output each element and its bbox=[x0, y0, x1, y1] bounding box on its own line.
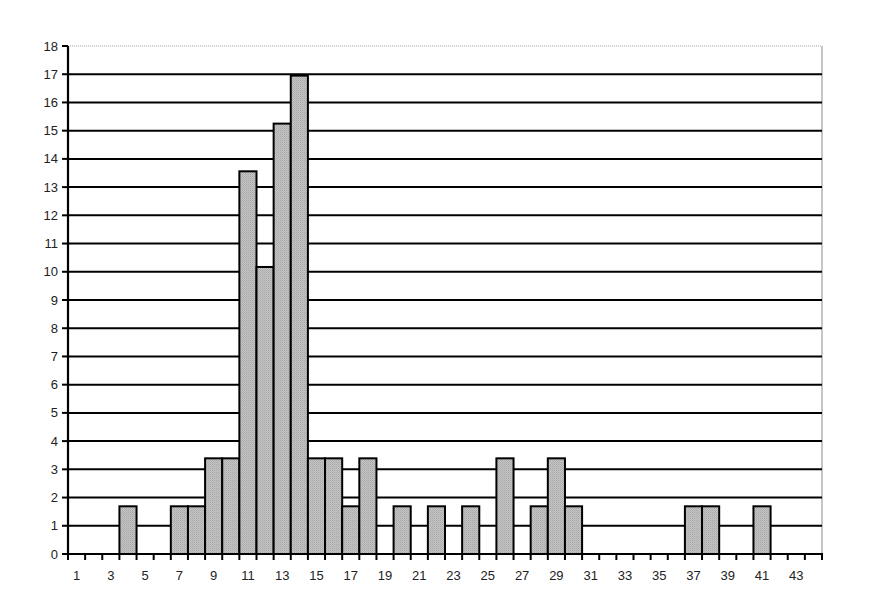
bar-41: 41: 1.69 bbox=[753, 506, 770, 554]
bars: 4: 1.697: 1.698: 1.699: 3.3910: 3.3911: … bbox=[119, 76, 770, 554]
bar-16: 16: 3.39 bbox=[325, 458, 342, 554]
x-tick-label: 19 bbox=[378, 568, 392, 583]
x-tick-label: 9 bbox=[210, 568, 217, 583]
bar-26: 26: 3.39 bbox=[496, 458, 513, 554]
x-tick-label: 7 bbox=[176, 568, 183, 583]
bar-4: 4: 1.69 bbox=[119, 506, 136, 554]
x-tick-label: 27 bbox=[515, 568, 529, 583]
x-tick-label: 31 bbox=[583, 568, 597, 583]
y-tick-label: 14 bbox=[44, 151, 58, 166]
bar-15: 15: 3.39 bbox=[308, 458, 325, 554]
bar-9: 9: 3.39 bbox=[205, 458, 222, 554]
bar-18: 18: 3.39 bbox=[359, 458, 376, 554]
y-tick-label: 4 bbox=[51, 434, 58, 449]
bar-14: 14: 16.95 bbox=[291, 76, 308, 554]
bar-37: 37: 1.69 bbox=[685, 506, 702, 554]
x-tick-label: 15 bbox=[309, 568, 323, 583]
x-tick-label: 43 bbox=[789, 568, 803, 583]
bar-22: 22: 1.69 bbox=[428, 506, 445, 554]
x-tick-label: 29 bbox=[549, 568, 563, 583]
bar-24: 24: 1.69 bbox=[462, 506, 479, 554]
x-tick-label: 23 bbox=[446, 568, 460, 583]
x-tick-label: 21 bbox=[412, 568, 426, 583]
x-tick-label: 3 bbox=[107, 568, 114, 583]
bar-17: 17: 1.69 bbox=[342, 506, 359, 554]
gridlines bbox=[68, 74, 822, 526]
y-tick-label: 15 bbox=[44, 123, 58, 138]
y-tick-label: 0 bbox=[51, 547, 58, 562]
x-tick-label: 37 bbox=[686, 568, 700, 583]
y-tick-label: 8 bbox=[51, 321, 58, 336]
bar-7: 7: 1.69 bbox=[171, 506, 188, 554]
y-tick-label: 17 bbox=[44, 67, 58, 82]
histogram-chart: 4: 1.697: 1.698: 1.699: 3.3910: 3.3911: … bbox=[0, 0, 870, 608]
y-tick-label: 10 bbox=[44, 264, 58, 279]
bar-30: 30: 1.69 bbox=[565, 506, 582, 554]
y-axis-ticks: 0123456789101112131415161718 bbox=[44, 39, 68, 562]
y-tick-label: 6 bbox=[51, 377, 58, 392]
y-tick-label: 5 bbox=[51, 405, 58, 420]
y-tick-label: 12 bbox=[44, 208, 58, 223]
x-axis-ticks: 135791113151719212325272931333537394143 bbox=[68, 554, 822, 583]
bar-8: 8: 1.69 bbox=[188, 506, 205, 554]
y-tick-label: 13 bbox=[44, 180, 58, 195]
x-tick-label: 13 bbox=[275, 568, 289, 583]
x-tick-label: 1 bbox=[73, 568, 80, 583]
x-tick-label: 17 bbox=[344, 568, 358, 583]
x-tick-label: 33 bbox=[618, 568, 632, 583]
x-tick-label: 25 bbox=[481, 568, 495, 583]
bar-11: 11: 13.56 bbox=[239, 171, 256, 554]
x-tick-label: 35 bbox=[652, 568, 666, 583]
bar-10: 10: 3.39 bbox=[222, 458, 239, 554]
y-tick-label: 7 bbox=[51, 349, 58, 364]
y-tick-label: 11 bbox=[45, 236, 59, 251]
bar-13: 13: 15.25 bbox=[274, 124, 291, 554]
x-tick-label: 5 bbox=[141, 568, 148, 583]
bar-29: 29: 3.39 bbox=[548, 458, 565, 554]
x-tick-label: 11 bbox=[241, 568, 255, 583]
bar-12: 12: 10.17 bbox=[257, 267, 274, 554]
y-tick-label: 3 bbox=[51, 462, 58, 477]
x-tick-label: 39 bbox=[721, 568, 735, 583]
y-tick-label: 16 bbox=[44, 95, 58, 110]
y-tick-label: 1 bbox=[51, 518, 58, 533]
bar-38: 38: 1.69 bbox=[702, 506, 719, 554]
y-tick-label: 18 bbox=[44, 39, 58, 54]
y-tick-label: 9 bbox=[51, 293, 58, 308]
y-tick-label: 2 bbox=[51, 490, 58, 505]
bar-28: 28: 1.69 bbox=[531, 506, 548, 554]
x-tick-label: 41 bbox=[755, 568, 769, 583]
bar-20: 20: 1.69 bbox=[394, 506, 411, 554]
